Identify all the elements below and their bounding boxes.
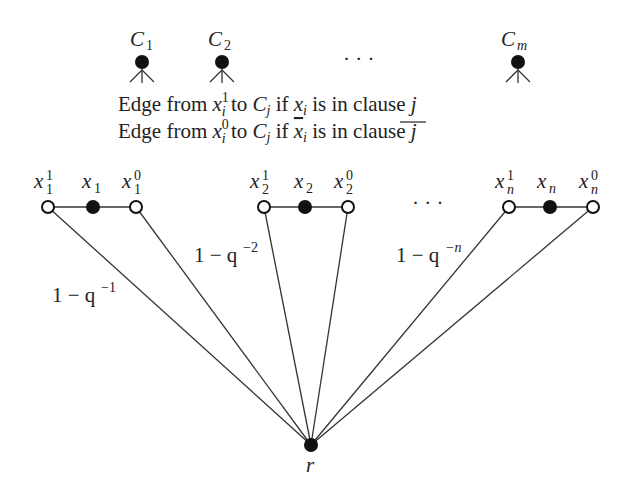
svg-text:0: 0 [134,168,141,183]
svg-text:1: 1 [262,168,269,183]
svg-text:n: n [507,182,514,197]
label-x1: x [81,169,92,193]
svg-text:0: 0 [591,168,598,183]
clause-label-c2-sub: 2 [224,38,231,53]
svg-text:−1: −1 [101,280,116,295]
label-x1-pos: x [33,169,44,193]
svg-text:1: 1 [134,182,141,197]
node-x1 [86,200,100,214]
edge-weight-2: 1 − q −2 [194,240,258,267]
node-xn [543,200,557,214]
svg-text:0: 0 [346,168,353,183]
label-xn-neg: x [578,169,589,193]
svg-text:n: n [549,181,556,196]
root-label: r [306,453,315,477]
label-xn-pos: x [494,169,505,193]
label-x2-pos: x [249,169,260,193]
svg-text:2: 2 [306,181,313,196]
reduction-diagram: C 1 C 2 · · · C m Edge from x1i to Cj if… [0,0,640,496]
svg-text:n: n [591,182,598,197]
edge-weight-n: 1 − q −n [396,240,461,267]
node-x2-neg [342,201,354,213]
svg-text:1 − q: 1 − q [194,243,238,267]
clause-label-c1-sub: 1 [146,38,153,53]
label-x1-neg: x [121,169,132,193]
variable-gadget-n: x 1 n x n x 0 n [494,168,599,214]
clause-node-c2: C 2 [208,27,234,83]
label-xn: x [536,169,547,193]
node-xn-neg [587,201,599,213]
svg-text:1: 1 [46,168,53,183]
clause-label-c2-name: C [208,27,223,51]
clause-node-c1: C 1 [130,27,154,83]
root-edges [48,207,593,445]
clause-node-c1-dot [135,55,149,69]
caption-line-1: Edge from x1i to Cj if xi is in clause j [118,90,417,119]
label-x2: x [293,169,304,193]
variable-gadget-1: x 1 1 x 1 x 0 1 [33,168,142,214]
clause-node-cm: C m [501,27,530,83]
svg-text:1: 1 [507,168,514,183]
svg-text:−2: −2 [243,240,258,255]
root-node [304,438,318,452]
clause-label-cm-sub: m [517,38,527,53]
node-x2 [298,200,312,214]
svg-text:1: 1 [46,182,53,197]
clause-node-cm-dot [511,55,525,69]
variable-ellipsis: · · · [412,191,443,215]
clause-label-cm-name: C [501,27,516,51]
node-xn-pos [503,201,515,213]
edge-weight-1: 1 − q −1 [52,280,116,307]
clause-ellipsis: · · · [343,47,374,71]
svg-text:1 − q: 1 − q [396,243,440,267]
svg-text:2: 2 [346,182,353,197]
node-x2-pos [258,201,270,213]
variable-gadget-2: x 1 2 x 2 x 0 2 [249,168,354,214]
svg-text:−n: −n [445,240,461,255]
node-x1-pos [42,201,54,213]
svg-text:2: 2 [262,182,269,197]
node-x1-neg [130,201,142,213]
svg-text:1 − q: 1 − q [52,283,96,307]
caption-line-2: Edge from x0i to Cj if xi is in clause j [118,117,417,146]
svg-text:1: 1 [94,181,101,196]
label-x2-neg: x [333,169,344,193]
clause-label-c1-name: C [130,27,145,51]
clause-node-c2-dot [215,55,229,69]
